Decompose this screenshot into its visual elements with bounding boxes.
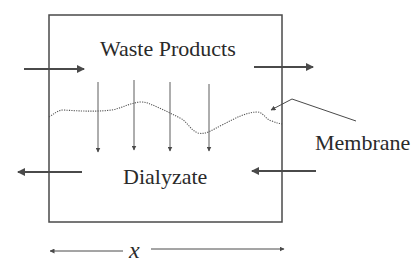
length-variable-label: x [128,237,140,263]
membrane-line [49,102,282,133]
membrane-pointer [292,99,356,121]
dialysis-diagram: Waste Products Dialyzate Membrane x [0,0,417,272]
membrane-label: Membrane [315,130,410,155]
dialyzate-label: Dialyzate [123,164,207,189]
waste-products-label: Waste Products [100,36,236,61]
diffusion-arrows [98,80,209,152]
